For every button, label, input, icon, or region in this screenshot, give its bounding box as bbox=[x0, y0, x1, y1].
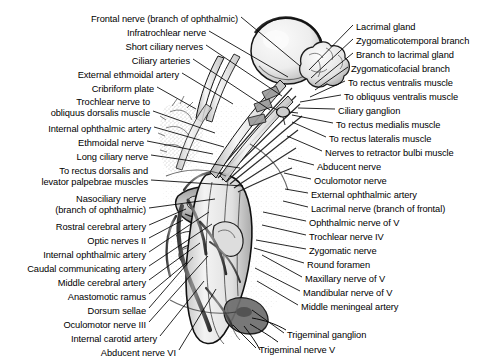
label-zygomaticofacial-branch: Zygomaticofacial branch bbox=[351, 64, 450, 75]
label-internal-ophthalmic-artery-lower: Internal ophthalmic artery bbox=[43, 250, 146, 261]
label-external-ophthalmic-artery: External ophthalmic artery bbox=[311, 190, 417, 201]
label-line: Zygomaticofacial branch bbox=[351, 64, 450, 75]
label-middle-meningeal-artery: Middle meningeal artery bbox=[301, 302, 398, 313]
label-zygomatic-nerve: Zygomatic nerve bbox=[309, 246, 377, 257]
label-line: To rectus medialis muscle bbox=[336, 120, 440, 131]
label-line: External ophthalmic artery bbox=[311, 190, 417, 201]
label-oculomotor-nerve-iii: Oculomotor nerve III bbox=[63, 320, 146, 331]
leader-line-trochlear-nerve-iv bbox=[262, 225, 306, 235]
leader-line-lacrimal-gland bbox=[309, 25, 353, 70]
label-line: Zygomatic nerve bbox=[309, 246, 377, 257]
label-mandibular-nerve-of-v: Mandibular nerve of V bbox=[303, 288, 392, 299]
leader-line-infratrochlear-nerve bbox=[209, 31, 288, 77]
label-nasociliary-nerve: Nasociliary nerve(branch of ophthalmic) bbox=[55, 194, 146, 215]
label-frontal-nerve: Frontal nerve (branch of ophthalmic) bbox=[91, 14, 238, 25]
label-round-foramen: Round foramen bbox=[307, 260, 370, 271]
label-line: Oculomotor nerve III bbox=[63, 320, 146, 331]
label-line: (branch of ophthalmic) bbox=[55, 205, 146, 216]
label-line: Ciliary arteries bbox=[132, 56, 190, 67]
label-anastomotic-ramus: Anastomotic ramus bbox=[68, 292, 146, 303]
label-optic-nerves-ii: Optic nerves II bbox=[87, 236, 146, 247]
label-oculomotor-nerve: Oculomotor nerve bbox=[314, 176, 387, 187]
leader-line-zygomatic-nerve bbox=[256, 240, 306, 249]
leader-line-cribriform-plate bbox=[157, 87, 196, 109]
label-infratrochlear-nerve: Infratrochlear nerve bbox=[127, 28, 206, 39]
label-branch-to-lacrimal-gland: Branch to lacrimal gland bbox=[356, 50, 454, 61]
label-line: Trigeminal nerve V bbox=[259, 345, 335, 356]
leader-line-middle-meningeal-artery bbox=[257, 281, 298, 305]
label-dorsum-sellae: Dorsum sellae bbox=[88, 306, 146, 317]
label-line: To obliquus ventralis muscle bbox=[344, 92, 458, 103]
leader-line-ciliary-arteries bbox=[193, 59, 270, 110]
label-line: Cribriform plate bbox=[92, 84, 154, 95]
label-short-ciliary-nerves: Short ciliary nerves bbox=[126, 42, 203, 53]
label-trigeminal-ganglion: Trigeminal ganglion bbox=[287, 330, 366, 341]
leader-line-rostral-cerebral-artery bbox=[149, 209, 186, 225]
label-line: Internal ophthalmic artery bbox=[43, 250, 146, 261]
anatomical-figure: Frontal nerve (branch of ophthalmic)Infr… bbox=[0, 0, 495, 364]
label-nerves-to-retractor-bulbi-muscle: Nerves to retractor bulbi muscle bbox=[325, 148, 454, 159]
leader-line-oculomotor-nerve-iii bbox=[149, 256, 208, 322]
leader-line-oculomotor-nerve bbox=[284, 173, 311, 179]
label-to-rectus-lateralis-muscle: To rectus lateralis muscle bbox=[329, 134, 431, 145]
label-external-ethmoidal-artery: External ethmoidal artery bbox=[78, 70, 179, 81]
leader-line-external-ethmoidal-artery bbox=[182, 73, 233, 104]
label-line: Short ciliary nerves bbox=[126, 42, 203, 53]
label-line: obliquus dorsalis muscle bbox=[51, 108, 150, 119]
leader-line-frontal-nerve bbox=[241, 17, 300, 66]
leader-line-long-ciliary-nerve bbox=[151, 155, 240, 168]
leader-line-round-foramen bbox=[254, 248, 304, 263]
label-maxillary-nerve-of-v: Maxillary nerve of V bbox=[305, 274, 385, 285]
label-line: To rectus lateralis muscle bbox=[329, 134, 431, 145]
label-line: Infratrochlear nerve bbox=[127, 28, 206, 39]
label-line: Zygomaticotemporal branch bbox=[356, 36, 469, 47]
leader-line-to-rectus-medialis-muscle bbox=[292, 115, 333, 123]
label-line: To rectus dorsalis and bbox=[41, 166, 148, 177]
label-ethmoidal-nerve: Ethmoidal nerve bbox=[78, 138, 144, 149]
leader-line-abducent-nerve bbox=[288, 158, 314, 165]
leader-line-mandibular-nerve-of-v bbox=[255, 268, 300, 291]
label-line: To rectus ventralis muscle bbox=[348, 78, 453, 89]
label-line: Nerves to retractor bulbi muscle bbox=[325, 148, 454, 159]
label-to-rectus-ventralis-muscle: To rectus ventralis muscle bbox=[348, 78, 453, 89]
leader-line-short-ciliary-nerves bbox=[206, 45, 282, 96]
label-to-rectus-dorsalis-and-levator-palpebrae: To rectus dorsalis andlevator palpebrae … bbox=[41, 166, 148, 187]
label-line: Trigeminal ganglion bbox=[287, 330, 366, 341]
label-line: Nasociliary nerve bbox=[55, 194, 146, 205]
leader-line-nerves-to-retractor-bulbi-muscle bbox=[287, 136, 322, 151]
leader-line-maxillary-nerve-of-v bbox=[262, 255, 302, 277]
label-line: Dorsum sellae bbox=[88, 306, 146, 317]
label-line: Branch to lacrimal gland bbox=[356, 50, 454, 61]
label-ophthalmic-nerve-of-v: Ophthalmic nerve of V bbox=[309, 218, 399, 229]
leader-line-ethmoidal-nerve bbox=[147, 141, 213, 154]
label-zygomaticotemporal-branch: Zygomaticotemporal branch bbox=[356, 36, 469, 47]
label-cribriform-plate: Cribriform plate bbox=[92, 84, 154, 95]
leader-line-ophthalmic-nerve-of-v bbox=[263, 212, 306, 221]
label-line: Trochlear nerve IV bbox=[309, 232, 384, 243]
label-line: Internal ophthalmic artery bbox=[48, 124, 151, 135]
leader-line-trigeminal-ganglion bbox=[252, 310, 284, 333]
label-middle-cerebral-artery: Middle cerebral artery bbox=[58, 278, 146, 289]
leader-line-to-rectus-lateralis-muscle bbox=[292, 122, 326, 137]
label-line: Lacrimal nerve (branch of frontal) bbox=[311, 204, 445, 215]
leader-line-to-obliquus-ventralis-muscle bbox=[300, 95, 341, 102]
leader-line-caudal-communicating-artery bbox=[149, 224, 212, 266]
label-line: Ethmoidal nerve bbox=[78, 138, 144, 149]
label-line: Abducent nerve bbox=[317, 162, 381, 173]
label-to-obliquus-ventralis-muscle: To obliquus ventralis muscle bbox=[344, 92, 458, 103]
label-rostral-cerebral-artery: Rostral cerebral artery bbox=[56, 222, 146, 233]
leader-line-ciliary-ganglion bbox=[298, 108, 335, 109]
label-line: Round foramen bbox=[307, 260, 370, 271]
label-abducent-nerve: Abducent nerve bbox=[317, 162, 381, 173]
label-line: Long ciliary nerve bbox=[77, 152, 148, 163]
leader-line-abducent-nerve-vi bbox=[179, 289, 216, 350]
label-line: Frontal nerve (branch of ophthalmic) bbox=[91, 14, 238, 25]
label-line: Anastomotic ramus bbox=[68, 292, 146, 303]
label-line: Ciliary ganglion bbox=[338, 106, 400, 117]
leader-line-lacrimal-nerve bbox=[283, 201, 308, 207]
leader-line-internal-carotid-artery bbox=[160, 281, 204, 336]
label-lacrimal-nerve: Lacrimal nerve (branch of frontal) bbox=[311, 204, 445, 215]
label-trigeminal-nerve-v: Trigeminal nerve V bbox=[259, 345, 335, 356]
leader-line-internal-ophthalmic-artery-upper bbox=[154, 127, 224, 147]
leader-line-external-ophthalmic-artery bbox=[285, 189, 308, 193]
